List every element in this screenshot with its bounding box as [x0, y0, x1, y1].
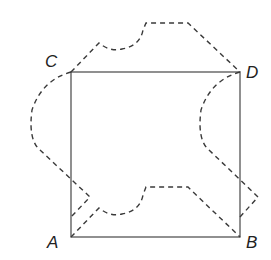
vertex-label-d: D: [246, 63, 258, 82]
right-dashed-shape: [200, 72, 258, 217]
vertex-label-a: A: [46, 233, 58, 252]
vertex-label-c: C: [45, 52, 58, 71]
square-diagram: C D A B: [0, 0, 271, 260]
left-dashed-shape: [31, 72, 90, 217]
vertex-label-b: B: [246, 233, 257, 252]
bottom-dashed-shape: [71, 187, 240, 237]
top-dashed-shape: [71, 23, 240, 72]
